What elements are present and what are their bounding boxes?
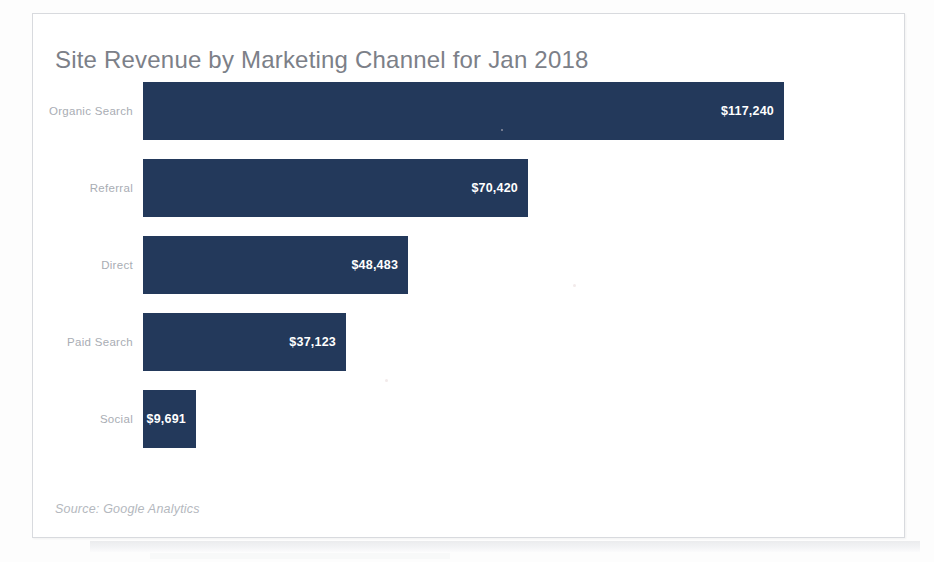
bar-category-label: Direct: [33, 236, 133, 294]
bar-category-label: Referral: [33, 159, 133, 217]
chart-title: Site Revenue by Marketing Channel for Ja…: [55, 46, 589, 74]
bar-value-label: $9,691: [116, 390, 186, 448]
source-note: Source: Google Analytics: [55, 502, 200, 516]
bar-value-label: $70,420: [448, 159, 518, 217]
bar-row: Social$9,691: [33, 390, 906, 448]
scan-edge-band-secondary: [150, 553, 450, 559]
bar-row: Paid Search$37,123: [33, 313, 906, 371]
bar-value-label: $48,483: [328, 236, 398, 294]
bar-row: Direct$48,483: [33, 236, 906, 294]
bar-row: Referral$70,420: [33, 159, 906, 217]
scan-speck: [385, 379, 388, 382]
bar-category-label: Organic Search: [33, 82, 133, 140]
chart-plot-area: Organic Search$117,240Referral$70,420Dir…: [33, 82, 906, 472]
bar-value-label: $117,240: [704, 82, 774, 140]
scan-edge-band: [90, 541, 920, 552]
bar-value-label: $37,123: [266, 313, 336, 371]
scan-speck: [501, 129, 503, 131]
bar-category-label: Paid Search: [33, 313, 133, 371]
scan-speck: [573, 284, 576, 287]
chart-card: Site Revenue by Marketing Channel for Ja…: [32, 13, 905, 538]
bar-row: Organic Search$117,240: [33, 82, 906, 140]
bar[interactable]: [143, 82, 784, 140]
